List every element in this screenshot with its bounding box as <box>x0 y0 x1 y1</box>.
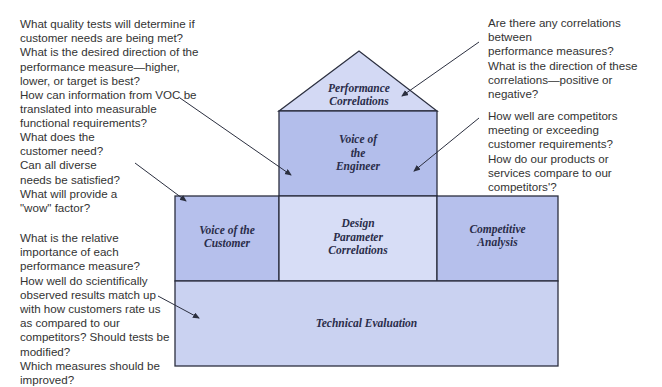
arrow-to-performance-correlations <box>402 42 479 96</box>
label-performance-correlations: Performance Correlations <box>309 80 409 110</box>
label-competitive-analysis: Competitive Analysis <box>437 221 558 251</box>
label-technical-evaluation: Technical Evaluation <box>175 316 558 332</box>
label-design-parameter-correlations: Design Parameter Correlations <box>279 215 437 260</box>
annotation-customer-questions: What does the customer need? Can all div… <box>20 130 150 215</box>
annotation-engineer-questions: What quality tests will determine if cus… <box>20 17 220 131</box>
label-voice-of-customer: Voice of the Customer <box>175 222 279 252</box>
annotation-evaluation-questions: What is the relative importance of each … <box>20 231 180 387</box>
annotation-correlation-questions: Are there any correlations between perfo… <box>488 16 662 101</box>
annotation-competitor-questions: How well are competitors meeting or exce… <box>488 109 662 194</box>
label-voice-of-engineer: Voice of the Engineer <box>279 131 437 176</box>
